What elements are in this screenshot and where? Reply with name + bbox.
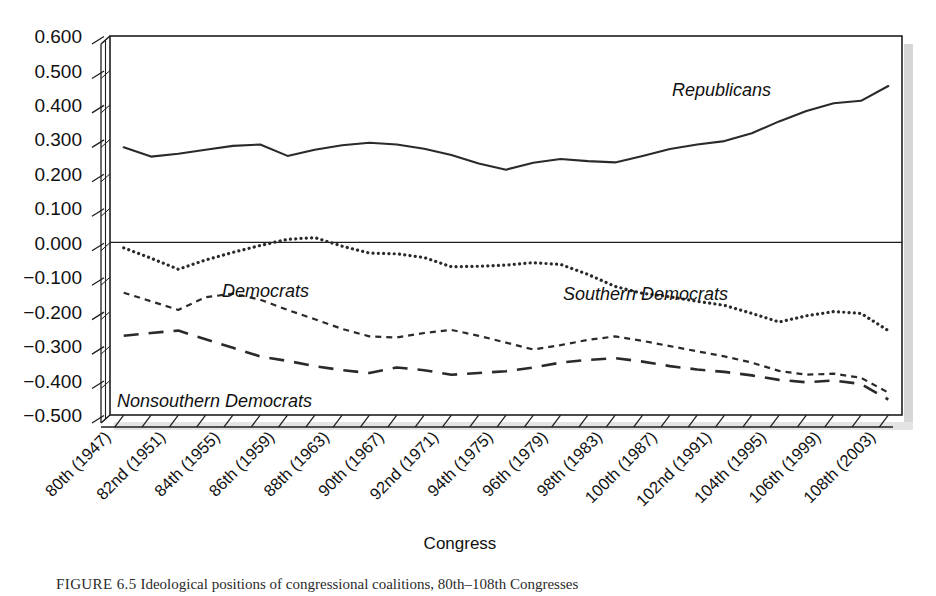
x-axis-labels: 80th (1947)82nd (1951)84th (1955)86th (1… xyxy=(41,427,878,509)
series-label-democrats: Democrats xyxy=(222,281,309,301)
y-tick-label: −0.500 xyxy=(23,405,82,426)
figure-container: 0.6000.5000.4000.3000.2000.1000.000−0.10… xyxy=(0,0,936,596)
y-axis: 0.6000.5000.4000.3000.2000.1000.000−0.10… xyxy=(23,26,110,426)
series-label-republicans: Republicans xyxy=(672,80,771,100)
series-label-southern-democrats: Southern Democrats xyxy=(563,284,728,304)
y-tick-label: −0.400 xyxy=(23,371,82,392)
y-tick-label: 0.500 xyxy=(34,61,82,82)
figure-caption-text: Ideological positions of congressional c… xyxy=(140,576,578,592)
y-tick-label: 0.100 xyxy=(34,198,82,219)
y-tick-label: −0.200 xyxy=(23,302,82,323)
y-tick-label: 0.300 xyxy=(34,129,82,150)
y-tick-label: 0.600 xyxy=(34,26,82,47)
plot-frame xyxy=(101,36,902,423)
y-tick-label: 0.400 xyxy=(34,95,82,116)
y-tick-label: 0.200 xyxy=(34,164,82,185)
figure-caption-number: FIGURE 6.5 xyxy=(56,576,137,592)
y-tick-label: −0.100 xyxy=(23,267,82,288)
series-label-nonsouthern-democrats: Nonsouthern Democrats xyxy=(117,391,312,411)
x-axis-title: Congress xyxy=(424,534,497,553)
figure-caption: FIGURE 6.5 Ideological positions of cong… xyxy=(56,576,916,593)
y-tick-label: 0.000 xyxy=(34,233,82,254)
y-tick-label: −0.300 xyxy=(23,336,82,357)
congress-ideology-line-chart: 0.6000.5000.4000.3000.2000.1000.000−0.10… xyxy=(0,0,936,596)
